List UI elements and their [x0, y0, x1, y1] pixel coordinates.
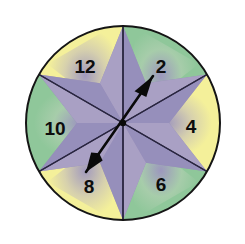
sector-label-6: 6 — [156, 174, 167, 195]
sector-label-2: 2 — [156, 56, 167, 77]
sector-label-10: 10 — [44, 118, 65, 139]
spinner-stage: 12246810 — [0, 0, 245, 244]
spinner-graphic: 12246810 — [0, 0, 245, 244]
sector-label-4: 4 — [186, 116, 197, 137]
sector-label-12: 12 — [74, 56, 95, 77]
sector-label-8: 8 — [84, 176, 95, 197]
arrow-pivot — [120, 120, 126, 126]
